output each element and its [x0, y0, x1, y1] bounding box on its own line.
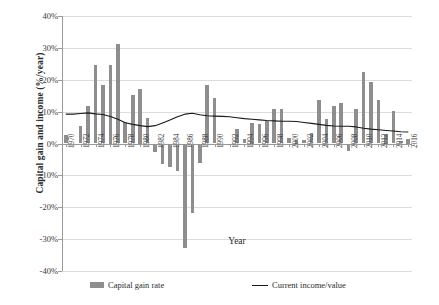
- x-tick-mark: [259, 144, 260, 147]
- x-tick-mark: [401, 144, 402, 147]
- y-tick-label: -10%: [24, 170, 58, 180]
- x-tick-mark: [103, 144, 104, 147]
- x-axis-labels: 1970197219741976197819801982198419861988…: [62, 144, 412, 204]
- y-tick-label: -40%: [24, 266, 58, 276]
- x-tick-mark: [96, 144, 97, 147]
- x-tick-mark: [177, 144, 178, 147]
- x-tick-mark: [252, 144, 253, 147]
- x-tick-mark: [289, 144, 290, 147]
- x-tick-label: 2016: [411, 133, 419, 147]
- x-tick-mark: [274, 144, 275, 147]
- x-tick-mark: [356, 144, 357, 147]
- y-tick-label: -20%: [24, 202, 58, 212]
- x-tick-mark: [341, 144, 342, 147]
- y-tick-label: 10%: [24, 107, 58, 117]
- x-tick-mark: [311, 144, 312, 147]
- y-tick-label: 0%: [24, 139, 58, 149]
- x-tick-mark: [215, 144, 216, 147]
- x-tick-mark: [386, 144, 387, 147]
- legend-label-current-income-value: Current income/value: [272, 280, 346, 290]
- x-tick-mark: [237, 144, 238, 147]
- x-tick-mark: [133, 144, 134, 147]
- x-tick-mark: [140, 144, 141, 147]
- y-tick-label: 30%: [24, 43, 58, 53]
- x-tick-mark: [73, 144, 74, 147]
- x-tick-mark: [207, 144, 208, 147]
- x-tick-mark: [66, 144, 67, 147]
- x-tick-mark: [408, 144, 409, 147]
- x-tick-mark: [378, 144, 379, 147]
- y-axis-title: Capital gain and income (%/year): [35, 23, 45, 223]
- x-tick-mark: [125, 144, 126, 147]
- y-tick-label: 20%: [24, 75, 58, 85]
- x-tick-mark: [267, 144, 268, 147]
- x-tick-mark: [170, 144, 171, 147]
- y-tick-label: -30%: [24, 234, 58, 244]
- x-tick-mark: [81, 144, 82, 147]
- chart-root: Capital gain and income (%/year) 40%30%2…: [0, 0, 439, 305]
- x-tick-mark: [148, 144, 149, 147]
- x-tick-mark: [110, 144, 111, 147]
- x-tick-mark: [118, 144, 119, 147]
- plot-area: 40%30%20%10%0%-10%-20%-30%-40% 197019721…: [62, 16, 412, 271]
- x-tick-mark: [222, 144, 223, 147]
- x-tick-mark: [304, 144, 305, 147]
- x-tick-mark: [282, 144, 283, 147]
- x-tick-mark: [297, 144, 298, 147]
- legend-line-swatch-icon: [252, 285, 268, 286]
- x-tick-mark: [155, 144, 156, 147]
- x-tick-mark: [334, 144, 335, 147]
- x-tick-mark: [326, 144, 327, 147]
- x-tick-mark: [364, 144, 365, 147]
- line-path: [66, 113, 409, 132]
- x-tick-mark: [319, 144, 320, 147]
- x-tick-mark: [185, 144, 186, 147]
- y-tick-label: 40%: [24, 11, 58, 21]
- gridline: [62, 271, 412, 272]
- y-tick-mark: [58, 271, 62, 272]
- x-tick-mark: [88, 144, 89, 147]
- legend-item-current-income-value: Current income/value: [252, 280, 346, 290]
- legend-item-capital-gain-rate: Capital gain rate: [90, 280, 164, 290]
- x-tick-mark: [192, 144, 193, 147]
- x-tick-mark: [349, 144, 350, 147]
- chart-legend: Capital gain rate Current income/value: [62, 280, 412, 296]
- x-tick-mark: [230, 144, 231, 147]
- x-tick-mark: [393, 144, 394, 147]
- legend-bar-swatch-icon: [90, 282, 104, 288]
- x-tick-mark: [163, 144, 164, 147]
- x-axis-title: Year: [62, 236, 412, 246]
- x-tick-mark: [371, 144, 372, 147]
- x-tick-mark: [200, 144, 201, 147]
- legend-label-capital-gain-rate: Capital gain rate: [108, 280, 164, 290]
- x-tick-mark: [244, 144, 245, 147]
